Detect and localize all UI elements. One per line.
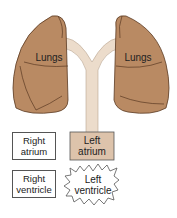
- right-atrium-line1: Right: [23, 135, 45, 146]
- left-ventricle-line2: ventricle: [74, 185, 111, 196]
- left-atrium-line1: Left: [84, 135, 101, 146]
- right-atrium-box: Rightatrium: [12, 132, 56, 160]
- right-lung: [114, 16, 169, 114]
- right-ventricle-line1: Right: [23, 173, 45, 184]
- right-ventricle-line2: ventricle: [16, 184, 51, 195]
- left-atrium-line2: atrium: [78, 146, 106, 157]
- left-ventricle-line1: Left: [85, 174, 102, 185]
- lungs-left-label: Lungs: [29, 52, 69, 63]
- right-atrium-line2: atrium: [21, 146, 47, 157]
- right-ventricle-box: Rightventricle: [12, 170, 56, 198]
- airway-vessel: [64, 38, 120, 142]
- left-lung: [13, 16, 68, 114]
- left-atrium-label: Leftatrium: [70, 135, 114, 157]
- lungs-right-label: Lungs: [118, 52, 158, 63]
- left-ventricle-label: Leftventricle: [68, 174, 118, 196]
